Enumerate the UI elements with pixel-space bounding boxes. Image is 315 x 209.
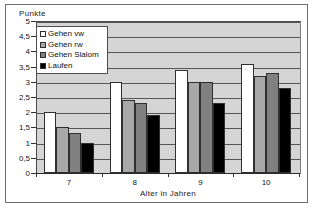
bar: [254, 76, 267, 173]
bar: [122, 100, 135, 173]
bar-group: [102, 21, 168, 173]
bar: [188, 82, 201, 173]
x-tick-label: 9: [198, 178, 202, 187]
bar: [213, 103, 226, 173]
legend-swatch-icon: [40, 31, 46, 37]
legend-label: Gehen vw: [48, 29, 84, 39]
bar: [241, 64, 254, 173]
bar: [69, 133, 82, 173]
legend-item: Laufen: [40, 61, 105, 72]
legend-swatch-icon: [40, 52, 46, 58]
legend-item: Gehen Slalom: [40, 50, 105, 61]
bar: [44, 112, 57, 173]
legend-item: Gehen rw: [40, 40, 105, 51]
x-tick-label: 8: [132, 178, 136, 187]
legend-label: Gehen Slalom: [48, 50, 99, 60]
bar: [266, 73, 279, 173]
legend-label: Laufen: [48, 61, 72, 71]
x-tick-mark: [36, 173, 37, 177]
x-axis-title: Alter in Jahren: [36, 189, 300, 198]
bar: [110, 82, 123, 173]
x-tick-mark: [102, 173, 103, 177]
x-tick-label: 10: [262, 178, 271, 187]
chart-legend: Gehen vwGehen rwGehen SlalomLaufen: [36, 26, 108, 74]
x-tick-mark: [168, 173, 169, 177]
x-tick-mark: [299, 173, 300, 177]
bar: [56, 127, 69, 173]
legend-label: Gehen rw: [48, 40, 83, 50]
x-tick-label: 7: [67, 178, 71, 187]
x-tick-mark: [233, 173, 234, 177]
bar: [175, 70, 188, 173]
bar: [147, 115, 160, 173]
bar-group: [233, 21, 299, 173]
legend-swatch-icon: [40, 42, 46, 48]
legend-item: Gehen vw: [40, 29, 105, 40]
y-axis-ticks: 00,511,522,533,544,55: [0, 0, 36, 209]
bar: [135, 103, 148, 173]
bar: [200, 82, 213, 173]
bar: [81, 143, 94, 173]
chart-figure: Punkte 00,511,522,533,544,55 78910 Alter…: [0, 0, 315, 209]
bar-group: [168, 21, 234, 173]
bar: [279, 88, 292, 173]
legend-swatch-icon: [40, 63, 46, 69]
x-axis-ticks: 78910: [36, 173, 300, 203]
